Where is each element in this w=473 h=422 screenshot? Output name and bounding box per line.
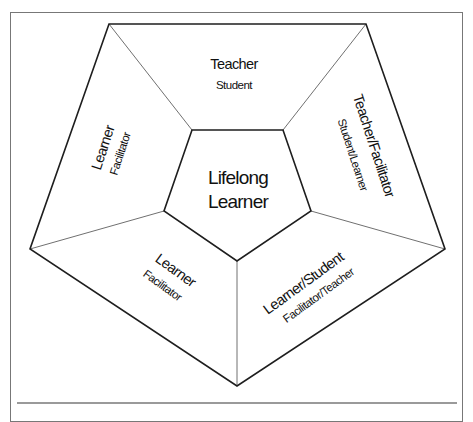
top-panel-primary: Teacher: [210, 56, 258, 72]
divider-top-left: [109, 24, 192, 130]
center-label-line2: Learner: [208, 191, 269, 212]
center-label-line1: Lifelong: [208, 167, 268, 188]
top-panel-secondary: Student: [216, 79, 253, 91]
divider-left: [30, 211, 164, 249]
divider-right: [311, 211, 445, 249]
divider-top-right: [283, 24, 366, 130]
